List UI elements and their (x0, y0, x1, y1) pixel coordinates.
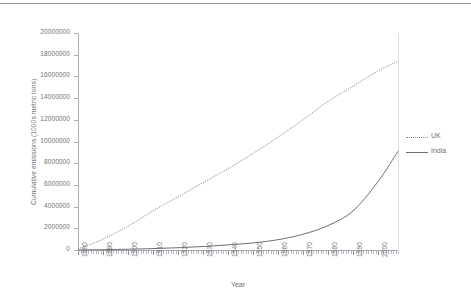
x-axis-minor-tick (346, 251, 347, 254)
legend-line-uk-icon (406, 137, 428, 138)
chart-figure: Cumulative emissions (1000s metric tons)… (0, 0, 471, 303)
series-line-uk (78, 61, 398, 249)
x-axis-minor-tick (301, 251, 302, 254)
x-axis-minor-tick (168, 251, 169, 254)
x-axis-minor-tick (348, 251, 349, 254)
x-axis-minor-tick (188, 251, 189, 254)
x-axis-minor-tick (248, 251, 249, 254)
x-axis-minor-tick (163, 251, 164, 254)
x-axis-major-tick (203, 251, 204, 255)
x-axis-minor-tick (171, 251, 172, 254)
header-divider (0, 3, 471, 4)
x-axis-minor-tick (276, 251, 277, 254)
x-axis-minor-tick (141, 251, 142, 254)
x-axis-minor-tick (123, 251, 124, 254)
x-axis-minor-tick (271, 251, 272, 254)
x-axis-minor-tick (201, 251, 202, 254)
x-axis-major-tick (128, 251, 129, 255)
y-axis-tick-label: 10000000 (40, 137, 70, 144)
x-axis-major-tick (178, 251, 179, 255)
x-axis-minor-tick (313, 251, 314, 254)
y-axis-tick-label: 2000000 (44, 223, 70, 230)
x-axis-minor-tick (166, 251, 167, 254)
x-axis-minor-tick (243, 251, 244, 254)
x-axis-major-tick (303, 251, 304, 255)
x-axis-minor-tick (138, 251, 139, 254)
x-axis-major-tick (153, 251, 154, 255)
x-axis-minor-tick (121, 251, 122, 254)
x-axis-minor-tick (213, 251, 214, 254)
legend-line-india-icon (406, 152, 428, 153)
x-axis-minor-tick (221, 251, 222, 254)
y-axis-tick-label: 18000000 (40, 50, 70, 57)
x-axis-minor-tick (366, 251, 367, 254)
x-axis-minor-tick (116, 251, 117, 254)
x-axis-minor-tick (93, 251, 94, 254)
x-axis-minor-tick (296, 251, 297, 254)
x-axis-minor-tick (266, 251, 267, 254)
y-axis-tick-label: 4000000 (44, 202, 70, 209)
x-axis-minor-tick (368, 251, 369, 254)
x-axis-minor-tick (126, 251, 127, 254)
x-axis-minor-tick (238, 251, 239, 254)
x-axis-minor-tick (196, 251, 197, 254)
x-axis-minor-tick (216, 251, 217, 254)
y-axis-tick-label: 0 (66, 245, 70, 252)
y-axis-tick-label: 14000000 (40, 93, 70, 100)
x-axis-minor-tick (341, 251, 342, 254)
x-axis-minor-tick (298, 251, 299, 254)
y-axis-tick-label: 12000000 (40, 115, 70, 122)
x-axis-minor-tick (118, 251, 119, 254)
x-axis-minor-tick (323, 251, 324, 254)
chart-legend: UK India (406, 131, 468, 161)
x-axis-major-tick (103, 251, 104, 255)
x-axis-minor-tick (321, 251, 322, 254)
x-axis-minor-tick (393, 251, 394, 254)
x-axis-minor-tick (373, 251, 374, 254)
x-axis-minor-tick (388, 251, 389, 254)
legend-label-india: India (431, 147, 446, 154)
x-axis-minor-tick (191, 251, 192, 254)
y-axis-tick-label: 16000000 (40, 71, 70, 78)
x-axis-minor-tick (376, 251, 377, 254)
x-axis-minor-tick (113, 251, 114, 254)
y-axis-title: Cumulative emissions (1000s metric tons) (30, 78, 37, 204)
x-axis-minor-tick (398, 251, 399, 254)
x-axis-minor-tick (326, 251, 327, 254)
x-axis-major-tick (328, 251, 329, 255)
x-axis-minor-tick (371, 251, 372, 254)
x-axis-minor-tick (98, 251, 99, 254)
x-axis-minor-tick (101, 251, 102, 254)
x-axis-major-tick (378, 251, 379, 255)
x-axis-minor-tick (363, 251, 364, 254)
x-axis-minor-tick (391, 251, 392, 254)
x-axis-minor-tick (193, 251, 194, 254)
x-axis-minor-tick (96, 251, 97, 254)
x-axis-minor-tick (246, 251, 247, 254)
x-axis-minor-tick (88, 251, 89, 254)
series-lines (78, 33, 398, 250)
plot-right-border (398, 33, 399, 250)
x-axis-minor-tick (318, 251, 319, 254)
x-axis-minor-tick (288, 251, 289, 254)
x-axis-minor-tick (218, 251, 219, 254)
x-axis-title: Year (78, 281, 398, 288)
x-axis-minor-tick (148, 251, 149, 254)
x-axis-minor-tick (273, 251, 274, 254)
x-axis-minor-tick (143, 251, 144, 254)
x-axis-minor-tick (241, 251, 242, 254)
x-axis-minor-tick (291, 251, 292, 254)
x-axis-minor-tick (151, 251, 152, 254)
legend-item-uk[interactable]: UK (406, 131, 468, 146)
plot-area (78, 33, 398, 250)
x-axis-major-tick (228, 251, 229, 255)
legend-item-india[interactable]: India (406, 146, 468, 161)
x-axis-minor-tick (91, 251, 92, 254)
x-axis-minor-tick (226, 251, 227, 254)
y-axis-tick-label: 8000000 (44, 158, 70, 165)
y-axis-tick-label: 20000000 (40, 28, 70, 35)
x-axis-major-tick (353, 251, 354, 255)
x-axis-major-tick (278, 251, 279, 255)
x-axis-minor-tick (338, 251, 339, 254)
y-axis-tick-label: 6000000 (44, 180, 70, 187)
